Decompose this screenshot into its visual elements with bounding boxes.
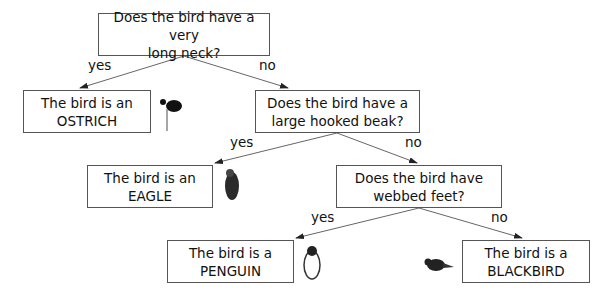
answer-eagle: The bird is an EAGLE <box>87 165 213 208</box>
answer-blackbird: The bird is a BLACKBIRD <box>462 240 590 283</box>
answer-penguin: The bird is a PENGUIN <box>167 240 294 283</box>
node-text: long neck? <box>148 44 221 62</box>
node-text: Does the bird have <box>355 169 483 187</box>
edge-label-no: no <box>405 134 422 150</box>
node-text: OSTRICH <box>57 112 117 130</box>
node-text: BLACKBIRD <box>487 262 564 280</box>
ostrich-icon <box>157 95 185 133</box>
edge-label-yes: yes <box>88 57 111 73</box>
node-text: large hooked beak? <box>271 112 403 130</box>
question-long-neck: Does the bird have a very long neck? <box>98 13 270 56</box>
penguin-icon <box>301 245 323 281</box>
node-text: The bird is an <box>41 94 133 112</box>
node-text: webbed feet? <box>373 187 464 205</box>
node-text: Does the bird have a very <box>99 8 269 44</box>
node-text: The bird is an <box>104 169 196 187</box>
answer-ostrich: The bird is an OSTRICH <box>23 90 151 133</box>
edge-label-yes: yes <box>311 209 334 225</box>
node-text: Does the bird have a <box>267 94 408 112</box>
node-text: EAGLE <box>128 187 172 205</box>
edge-label-yes: yes <box>230 134 253 150</box>
node-text: The bird is a <box>189 244 272 262</box>
edge-label-no: no <box>259 57 276 73</box>
question-webbed-feet: Does the bird have webbed feet? <box>336 165 502 208</box>
edge-label-no: no <box>491 209 508 225</box>
eagle-icon <box>222 168 242 206</box>
node-text: The bird is a <box>484 244 567 262</box>
question-hooked-beak: Does the bird have a large hooked beak? <box>255 90 420 133</box>
node-text: PENGUIN <box>200 262 261 280</box>
blackbird-icon <box>423 255 455 277</box>
